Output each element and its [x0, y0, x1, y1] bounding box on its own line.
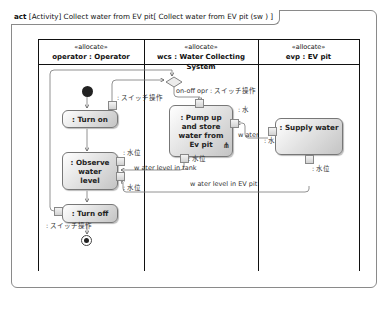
pin-label: : 水	[238, 106, 249, 114]
rake-icon: ⋔	[223, 142, 230, 150]
action-observe-water-level[interactable]: : Observe water level	[62, 152, 118, 190]
pin-switch-op-out[interactable]	[108, 101, 117, 110]
action-label: : Turn on	[72, 115, 108, 124]
flow-label: w ater level in EV pit	[190, 180, 257, 188]
pin-water-out[interactable]	[268, 127, 277, 136]
edges-layer	[0, 0, 385, 326]
action-label: : Observe water level	[68, 158, 112, 185]
action-label: : Supply water	[280, 123, 339, 132]
pin-level-in-1[interactable]	[116, 157, 125, 166]
pin-label: : スイッチ操作	[46, 222, 92, 230]
action-turn-on[interactable]: : Turn on	[62, 110, 118, 128]
action-supply-water[interactable]: : Supply water	[275, 118, 343, 155]
activity-final-icon[interactable]	[81, 235, 92, 246]
pin-label: : 水	[264, 137, 275, 145]
pin-label: : 水位	[123, 149, 141, 157]
flow-label: w ater	[238, 131, 259, 139]
pin-switch-op-out-2[interactable]	[54, 207, 63, 216]
action-turn-off[interactable]: : Turn off	[62, 204, 118, 223]
pin-label: : 水位	[188, 155, 206, 163]
pin-onoff-in[interactable]	[195, 99, 204, 108]
pin-level-in-2[interactable]	[116, 172, 125, 181]
pin-label: : 水位	[312, 165, 330, 173]
merge-node-icon	[166, 77, 182, 87]
pin-label: on-off opr : スイッチ操作	[176, 87, 256, 95]
pin-level-out-pit[interactable]	[305, 155, 314, 164]
pin-label: : スイッチ操作	[117, 94, 163, 102]
pin-label: : 水位	[123, 184, 141, 192]
action-label: : Turn off	[72, 209, 109, 218]
action-label: : Pump up and store water from Ev pit	[173, 113, 229, 149]
flow-label: w ater level in tank	[134, 164, 197, 172]
pin-water-in[interactable]	[230, 119, 239, 128]
initial-node-icon[interactable]	[82, 86, 93, 97]
